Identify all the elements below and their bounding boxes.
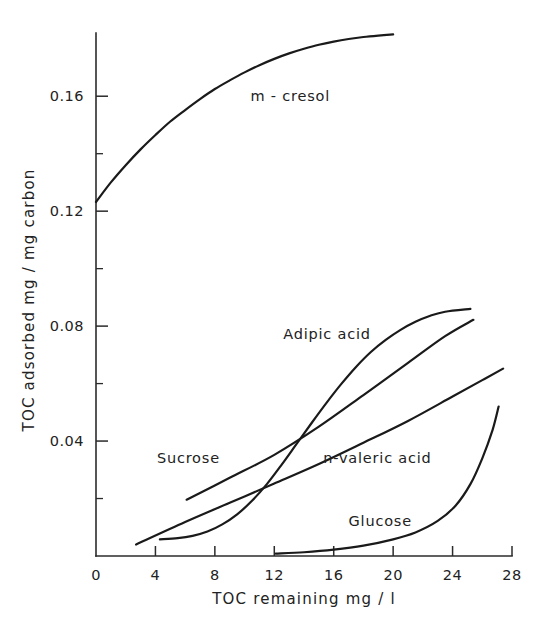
x-tick-label: 4 (151, 567, 161, 583)
series-label-sucrose: Sucrose (157, 450, 220, 466)
y-tick-label: 0.08 (50, 318, 84, 334)
x-tick-label: 8 (210, 567, 220, 583)
curve-glucose (276, 407, 499, 554)
x-axis-tick-labels: 0481216202428 (91, 567, 522, 583)
x-axis-title: TOC remaining mg / l (211, 590, 396, 608)
x-tick-label: 24 (443, 567, 462, 583)
chart-svg: 0481216202428 0.040.080.120.16 m - creso… (0, 0, 541, 634)
series-label-glucose: Glucose (349, 513, 412, 529)
y-axis-title: TOC adsorbed mg / mg carbon (20, 169, 38, 433)
y-axis-tick-labels: 0.040.080.120.16 (50, 88, 84, 449)
x-tick-label: 20 (383, 567, 402, 583)
data-curves (96, 34, 503, 553)
x-axis-ticks (155, 546, 512, 556)
x-tick-label: 12 (265, 567, 284, 583)
axes-group (96, 33, 512, 556)
y-tick-label: 0.12 (50, 203, 84, 219)
curve-m-cresol (96, 34, 393, 202)
series-labels: m - cresolAdipic acidSucrosen-valeric ac… (157, 88, 432, 529)
series-label-m-cresol: m - cresol (251, 88, 331, 104)
y-tick-label: 0.04 (50, 433, 84, 449)
x-tick-label: 28 (502, 567, 521, 583)
figure-container: 0481216202428 0.040.080.120.16 m - creso… (0, 0, 541, 634)
x-tick-label: 0 (91, 567, 101, 583)
series-label-adipic-acid: Adipic acid (283, 326, 371, 342)
curve-adipic-acid (160, 309, 471, 539)
y-tick-label: 0.16 (50, 88, 84, 104)
series-label-n-valeric-acid: n-valeric acid (323, 450, 431, 466)
x-tick-label: 16 (324, 567, 343, 583)
